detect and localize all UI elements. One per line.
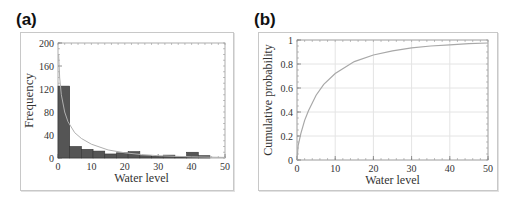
histogram-y-tick-label: 120 <box>39 84 54 95</box>
histogram-x-axis-label: Water level <box>114 171 169 185</box>
cdf-y-axis-label: Cumulative probability <box>261 44 275 156</box>
cdf-y-tick-label: 0 <box>288 155 293 166</box>
cdf-y-tick-label: 1 <box>288 35 293 46</box>
histogram-y-tick-label: 160 <box>39 61 54 72</box>
histogram-chart: 0102030405004080120160200Water levelFreq… <box>0 0 512 202</box>
histogram-x-tick-label: 10 <box>86 161 96 172</box>
histogram-bar <box>93 151 105 158</box>
histogram-bar <box>105 154 117 158</box>
histogram-y-tick-label: 200 <box>39 38 54 49</box>
cdf-y-tick-label: 0.4 <box>281 107 294 118</box>
cdf-plot-area <box>297 40 488 160</box>
histogram-y-tick-label: 0 <box>49 153 54 164</box>
histogram-y-tick-label: 80 <box>44 107 54 118</box>
histogram-bar <box>81 149 93 158</box>
histogram-bar <box>128 152 140 158</box>
cdf-x-tick-label: 0 <box>295 163 300 174</box>
histogram-x-tick-label: 40 <box>187 161 197 172</box>
histogram-bar <box>70 147 82 159</box>
cdf-y-tick-label: 0.6 <box>281 83 294 94</box>
density-curve <box>59 55 225 158</box>
cdf-x-tick-label: 10 <box>330 163 340 174</box>
histogram-bar <box>116 153 128 158</box>
cdf-y-tick-label: 0.8 <box>281 59 294 70</box>
cdf-line <box>297 43 488 160</box>
histogram-y-axis-label: Frequency <box>21 73 36 128</box>
cdf-x-tick-label: 40 <box>445 163 455 174</box>
histogram-x-tick-label: 0 <box>56 161 61 172</box>
cdf-x-axis-label: Water level <box>365 173 420 187</box>
histogram-bar <box>140 156 152 158</box>
histogram-plot-area <box>58 43 225 158</box>
histogram-bar <box>152 156 164 158</box>
cdf-y-tick-label: 0.2 <box>281 131 294 142</box>
histogram-x-tick-label: 50 <box>220 161 230 172</box>
histogram-y-tick-label: 40 <box>44 130 54 141</box>
cdf-x-tick-label: 50 <box>483 163 493 174</box>
